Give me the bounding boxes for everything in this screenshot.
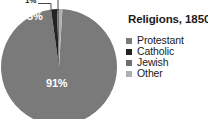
legend-item-other[interactable]: Other <box>126 68 208 79</box>
legend: Protestant Catholic Jewish Other <box>126 35 208 79</box>
chart-title: Religions, 1850 <box>128 13 208 25</box>
legend-swatch-icon <box>126 60 132 66</box>
pie-label-protestant: 91% <box>46 77 67 89</box>
pie-label-catholic: 5% <box>27 10 43 22</box>
chart-side-panel: Religions, 1850 Protestant Catholic Jewi… <box>124 0 208 119</box>
pie-chart-svg <box>0 8 118 119</box>
legend-swatch-icon <box>126 49 132 55</box>
pie-label-jewish: 1% <box>25 0 36 5</box>
pie-chart <box>0 8 118 119</box>
chart-figure: 91% 5% 1% Religions, 1850 Protestant Cat… <box>0 0 208 119</box>
legend-label: Other <box>137 68 163 79</box>
legend-swatch-icon <box>126 38 132 44</box>
legend-swatch-icon <box>126 71 132 77</box>
